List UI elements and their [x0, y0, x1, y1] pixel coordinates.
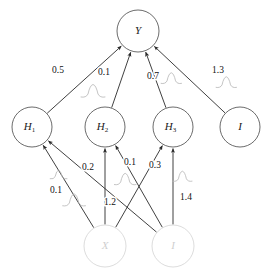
- network-diagram: YH1H2H3IXI 0.50.50.10.10.70.71.31.30.10.…: [0, 0, 274, 274]
- diagram-canvas: YH1H2H3IXI 0.50.50.10.10.70.71.31.30.10.…: [0, 0, 274, 274]
- noise-curve-icon-7: [173, 171, 192, 181]
- edge-weight-h1-y: 0.5: [52, 65, 64, 75]
- node-h3[interactable]: H3: [153, 107, 193, 147]
- edge-weight-x-h3: 0.3: [149, 160, 161, 170]
- noise-curve-icon-2: [161, 73, 181, 84]
- node-label-i2: I: [170, 239, 176, 251]
- node-i1[interactable]: I: [220, 107, 260, 147]
- node-y[interactable]: Y: [117, 10, 159, 52]
- node-label-y: Y: [135, 24, 143, 36]
- edge-weight-i2-h3: 1.4: [180, 192, 192, 202]
- edges-layer: [43, 46, 225, 232]
- node-label-h1: H1: [23, 120, 36, 134]
- node-label-h3: H3: [164, 120, 177, 134]
- edge-weight-x-h1: 0.1: [50, 185, 62, 195]
- edge-weight-h3-y: 0.7: [147, 71, 159, 81]
- noise-curve-icon-4: [50, 170, 67, 179]
- edge-weight-i2-h2: 0.1: [124, 157, 136, 167]
- node-label-h2: H2: [96, 120, 109, 134]
- edge-weight-i2-h1: 0.2: [82, 162, 94, 172]
- edge-i2-to-h1: [48, 141, 156, 232]
- node-label-x: X: [101, 239, 110, 251]
- edge-weight-h2-y: 0.1: [98, 67, 110, 77]
- noise-glyph-layer: [50, 73, 236, 206]
- noise-curve-icon-1: [81, 85, 105, 98]
- node-h1[interactable]: H1: [12, 107, 52, 147]
- node-x[interactable]: X: [84, 225, 126, 267]
- nodes-layer: YH1H2H3IXI: [12, 10, 260, 267]
- edge-i1-to-y: [154, 46, 225, 113]
- edge-h1-to-y: [47, 46, 121, 113]
- node-i2[interactable]: I: [152, 225, 194, 267]
- noise-curve-icon-3: [216, 77, 236, 88]
- edge-weight-x-h2: 1.2: [104, 197, 116, 207]
- edge-h2-to-y: [112, 52, 131, 107]
- node-label-i1: I: [237, 120, 243, 132]
- node-h2[interactable]: H2: [85, 107, 125, 147]
- edge-weight-i1-y: 1.3: [212, 65, 224, 75]
